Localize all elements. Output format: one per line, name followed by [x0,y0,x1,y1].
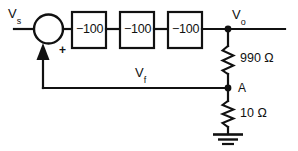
summing-junction-circle [34,15,63,44]
label-vo-text: V [232,7,241,22]
label-vs-subscript: s [17,16,22,26]
resistor-10-zigzag [223,101,234,127]
resistor-10-label: 10 Ω [240,107,267,120]
resistor-990-label: 990 Ω [240,52,274,65]
label-vo-subscript: o [241,17,246,27]
summer-plus-sign: + [59,44,66,56]
resistor-990-zigzag [223,46,234,74]
label-vs: Vs [8,7,21,24]
label-vf: Vf [135,66,146,83]
gain-block-1-label: −100 [76,23,103,36]
node-a-label: A [238,82,246,94]
label-vf-text: V [135,65,144,80]
label-vf-subscript: f [144,75,147,85]
gain-block-2-label: −100 [124,23,151,36]
circuit-diagram: Vs −100 −100 −100 Vo + 990 Ω Vf A 10 Ω [0,0,298,151]
label-vo: Vo [232,8,246,25]
feedback-arrowhead-icon [37,43,50,60]
gain-block-3-label: −100 [172,23,199,36]
label-vs-text: V [8,6,17,21]
